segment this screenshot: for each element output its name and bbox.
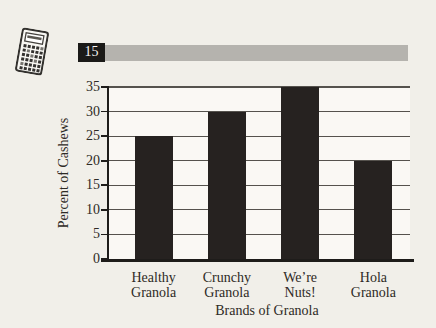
bar xyxy=(281,87,319,259)
bar xyxy=(354,161,392,259)
y-axis-title: Percent of Cashews xyxy=(56,118,72,228)
worksheet-page: 15 05101520253035Healthy GranolaCrunchy … xyxy=(0,0,436,328)
x-axis-title: Brands of Granola xyxy=(116,303,418,319)
y-axis-line xyxy=(107,86,109,260)
x-category-label: Hola Granola xyxy=(328,270,418,300)
gridline xyxy=(108,111,410,112)
bar xyxy=(208,112,246,259)
gridline xyxy=(108,86,410,87)
x-axis-line xyxy=(101,259,414,262)
y-axis-title-wrap: Percent of Cashews xyxy=(52,87,76,259)
bar xyxy=(135,136,173,259)
